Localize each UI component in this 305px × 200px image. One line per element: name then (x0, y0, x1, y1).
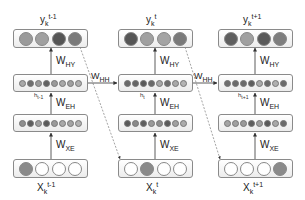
weight-label-weh: WEH (260, 98, 279, 108)
hidden-node (180, 80, 187, 87)
hidden-state-label: ht (140, 92, 145, 100)
embedding-node (51, 120, 58, 127)
input-label: Xkt-1 (37, 183, 55, 193)
weight-label-wxe: WXE (160, 140, 179, 150)
input-label: Xkt (146, 183, 158, 193)
recurrent-weight-label-1: WHH (91, 71, 110, 81)
embedding-node (180, 120, 187, 127)
hidden-node (264, 80, 271, 87)
input-node (157, 162, 171, 176)
embedding-node (132, 120, 139, 127)
output-label: ykt (146, 15, 156, 25)
output-label: ykt+1 (243, 15, 261, 25)
hidden-node (27, 80, 34, 87)
weight-label-weh: WEH (56, 98, 75, 108)
output-node (240, 32, 254, 46)
weight-label-wxe: WXE (260, 140, 279, 150)
weight-label-why: WHY (56, 56, 75, 66)
embedding-node (27, 120, 34, 127)
output-node (35, 32, 49, 46)
output-layer (218, 29, 293, 48)
embedding-layer (218, 114, 293, 132)
output-node (68, 32, 82, 46)
hidden-layer (13, 74, 88, 92)
input-node (124, 162, 138, 176)
hidden-node (43, 80, 50, 87)
input-layer (118, 159, 193, 178)
output-layer (13, 29, 88, 48)
input-layer (13, 159, 88, 178)
embedding-node (35, 120, 42, 127)
embedding-node (156, 120, 163, 127)
embedding-node (43, 120, 50, 127)
hidden-node (240, 80, 247, 87)
hidden-node (124, 80, 131, 87)
input-node (240, 162, 254, 176)
input-node-active (140, 162, 154, 176)
hidden-node (256, 80, 263, 87)
hidden-node (140, 80, 147, 87)
output-node (52, 32, 66, 46)
output-node (19, 32, 33, 46)
embedding-node (140, 120, 147, 127)
hidden-node (59, 80, 66, 87)
hidden-node (132, 80, 139, 87)
embedding-node (148, 120, 155, 127)
output-node (273, 32, 287, 46)
embedding-node (172, 120, 179, 127)
hidden-node (75, 80, 82, 87)
hidden-node (172, 80, 179, 87)
input-node (173, 162, 187, 176)
weight-label-weh: WEH (160, 98, 179, 108)
hidden-node (164, 80, 171, 87)
hidden-node (224, 80, 231, 87)
hidden-node (35, 80, 42, 87)
hidden-node (248, 80, 255, 87)
input-node (52, 162, 66, 176)
embedding-node (264, 120, 271, 127)
hidden-layer (218, 74, 293, 92)
output-node (124, 32, 138, 46)
input-node-active (19, 162, 33, 176)
weight-label-wxe: WXE (56, 140, 75, 150)
embedding-node (256, 120, 263, 127)
weight-label-why: WHY (160, 56, 179, 66)
input-layer (218, 159, 293, 178)
output-node (224, 32, 238, 46)
hidden-node (232, 80, 239, 87)
output-node (140, 32, 154, 46)
hidden-node (51, 80, 58, 87)
embedding-node (232, 120, 239, 127)
hidden-node (156, 80, 163, 87)
output-node (157, 32, 171, 46)
hidden-node (19, 80, 26, 87)
output-layer (118, 29, 193, 48)
embedding-node (272, 120, 279, 127)
input-node-active (273, 162, 287, 176)
input-node (68, 162, 82, 176)
hidden-layer (118, 74, 193, 92)
embedding-layer (13, 114, 88, 132)
hidden-node (67, 80, 74, 87)
hidden-node (280, 80, 287, 87)
embedding-node (280, 120, 287, 127)
embedding-node (164, 120, 171, 127)
embedding-node (224, 120, 231, 127)
embedding-node (59, 120, 66, 127)
embedding-node (240, 120, 247, 127)
recurrent-weight-label-2: WHH (194, 71, 213, 81)
output-node (173, 32, 187, 46)
input-label: Xkt+1 (243, 183, 263, 193)
hidden-node (148, 80, 155, 87)
output-node (257, 32, 271, 46)
input-node (35, 162, 49, 176)
hidden-state-label: ht-1 (34, 92, 43, 100)
embedding-node (124, 120, 131, 127)
input-node (257, 162, 271, 176)
embedding-node (248, 120, 255, 127)
embedding-node (19, 120, 26, 127)
output-label: ykt-1 (40, 15, 57, 25)
input-node (224, 162, 238, 176)
weight-label-why: WHY (260, 56, 279, 66)
hidden-node (272, 80, 279, 87)
